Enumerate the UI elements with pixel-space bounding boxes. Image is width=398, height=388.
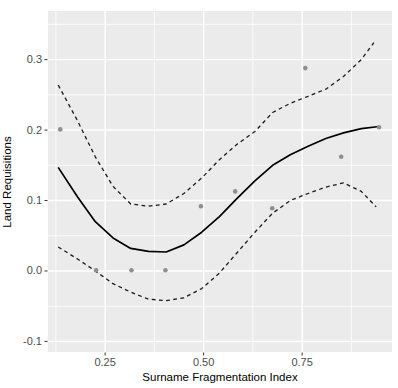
plot-svg: 0.250.500.75-0.10.00.10.20.3 Surname Fra… <box>0 0 398 388</box>
data-point <box>303 66 308 71</box>
plot-panel <box>48 11 392 352</box>
chart-figure: 0.250.500.75-0.10.00.10.20.3 Surname Fra… <box>0 0 398 388</box>
y-axis-title: Land Requisitions <box>1 136 13 228</box>
data-point <box>163 268 168 273</box>
data-point <box>377 125 382 130</box>
y-tick-label: 0.3 <box>27 53 42 65</box>
x-tick-label: 0.25 <box>94 356 115 368</box>
x-axis-title: Surname Fragmentation Index <box>142 371 298 383</box>
data-point <box>270 206 275 211</box>
data-point <box>199 204 204 209</box>
data-point <box>94 268 99 273</box>
data-point <box>339 155 344 160</box>
data-point <box>129 268 134 273</box>
x-tick-label: 0.75 <box>291 356 312 368</box>
x-tick-label: 0.50 <box>193 356 214 368</box>
y-tick-label: 0.1 <box>27 194 42 206</box>
y-tick-label: -0.1 <box>23 335 42 347</box>
y-tick-label: 0.2 <box>27 124 42 136</box>
y-tick-label: 0.0 <box>27 264 42 276</box>
data-point <box>233 189 238 194</box>
data-point <box>58 127 63 132</box>
